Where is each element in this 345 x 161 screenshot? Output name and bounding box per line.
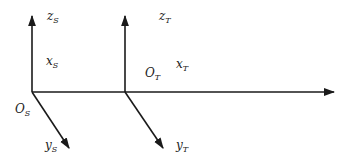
z-s-label: zS [47, 10, 59, 25]
x-t-label: xT [176, 58, 188, 73]
origin-s-label: OS [15, 103, 30, 118]
x-s-label: xS [46, 55, 58, 70]
z-t-label: zT [159, 10, 171, 25]
origin-t-label: OT [145, 67, 160, 82]
y-t-label: yT [176, 139, 188, 154]
y-s-label: yS [45, 139, 57, 154]
y-t-axis-arrow [125, 92, 163, 148]
